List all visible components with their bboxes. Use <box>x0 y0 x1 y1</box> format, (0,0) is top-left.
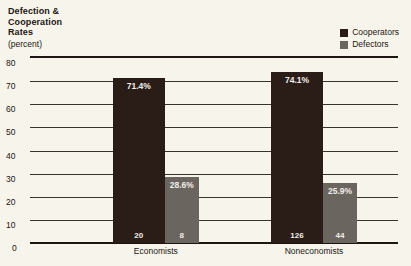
x-axis-category-label: Noneconomists <box>251 246 377 256</box>
legend-label-defectors: Defectors <box>352 40 388 49</box>
chart-subtitle: (percent) <box>8 39 148 50</box>
bar-percent-label: 71.4% <box>113 81 165 91</box>
chart-legend: Cooperators Defectors <box>340 27 399 50</box>
bar-count-label: 8 <box>165 231 199 240</box>
gridline <box>30 151 398 152</box>
y-axis-tick-label: 30 <box>6 175 26 184</box>
y-axis-tick-label: 60 <box>6 105 26 114</box>
page-title-line-1: Defection & <box>8 6 148 17</box>
y-axis-tick-label: 80 <box>6 59 26 68</box>
y-axis-tick-label: 40 <box>6 152 26 161</box>
bar-count-label: 20 <box>113 231 165 240</box>
chart-figure: Defection & Cooperation Rates (percent) … <box>0 0 411 266</box>
legend-swatch-icon-cooperators <box>340 29 348 37</box>
y-axis-tick-label: 70 <box>6 82 26 91</box>
legend-swatch-icon-defectors <box>340 41 348 49</box>
bar-percent-label: 28.6% <box>165 180 199 190</box>
plot-area: 71.4%2028.6%874.1%12625.9%44 <box>30 58 398 243</box>
x-axis-category-label: Economists <box>93 246 219 256</box>
legend-item-cooperators: Cooperators <box>340 27 399 38</box>
gridline <box>30 127 398 128</box>
bar-cooperators-noneconomists: 74.1%126 <box>271 72 323 243</box>
gridline <box>30 174 398 175</box>
y-axis-tick-label: 20 <box>6 198 26 207</box>
bar-count-label: 44 <box>323 231 357 240</box>
y-axis-tick-label: 50 <box>6 128 26 137</box>
chart-title-block: Defection & Cooperation Rates (percent) <box>8 6 148 50</box>
gridline <box>30 104 398 105</box>
bar-defectors-noneconomists: 25.9%44 <box>323 183 357 243</box>
y-axis-tick-label: 0 <box>12 244 32 253</box>
y-axis-tick-label: 10 <box>6 221 26 230</box>
bar-cooperators-economists: 71.4%20 <box>113 78 165 243</box>
legend-label-cooperators: Cooperators <box>352 28 399 37</box>
bar-percent-label: 25.9% <box>323 186 357 196</box>
bar-percent-label: 74.1% <box>271 75 323 85</box>
legend-item-defectors: Defectors <box>340 39 399 50</box>
page-title-line-3: Rates <box>8 27 148 38</box>
gridline <box>30 81 398 82</box>
bar-count-label: 126 <box>271 231 323 240</box>
bar-defectors-economists: 28.6%8 <box>165 177 199 243</box>
page-title-line-2: Cooperation <box>8 17 148 28</box>
